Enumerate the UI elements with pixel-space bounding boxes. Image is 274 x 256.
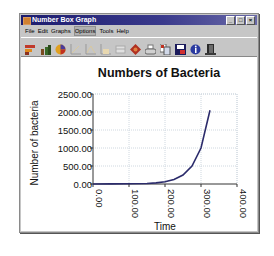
menu-edit[interactable]: Edit (38, 26, 48, 36)
minimize-button[interactable]: _ (226, 16, 235, 25)
bar-graph-icon[interactable] (25, 41, 36, 52)
y-tick-label: 1000.00 (58, 143, 92, 154)
save-icon[interactable] (175, 41, 186, 52)
app-window: Number Box Graph _ □ × File Edit Graphs … (19, 13, 259, 233)
chart-panel: Numbers of Bacteria0.00100.00200.00300.0… (21, 56, 257, 231)
y-tick-label: 0.00 (74, 179, 93, 190)
menu-file[interactable]: File (25, 26, 35, 36)
x-tick-label: 100.00 (130, 189, 141, 218)
close-button[interactable]: × (246, 16, 255, 25)
maximize-button[interactable]: □ (236, 16, 245, 25)
line-graph-icon[interactable] (70, 41, 81, 52)
y-tick-label: 2000.00 (58, 107, 92, 118)
toolbar (21, 37, 257, 55)
column-graph-icon[interactable] (40, 41, 51, 52)
menu-tools[interactable]: Tools (99, 26, 113, 36)
y-tick-label: 500.00 (63, 161, 92, 172)
x-tick-label: 400.00 (238, 189, 249, 218)
title-bar[interactable]: Number Box Graph _ □ × (21, 15, 257, 25)
x-tick-label: 300.00 (202, 189, 213, 218)
window-title: Number Box Graph (32, 16, 96, 23)
y-tick-label: 1500.00 (58, 125, 92, 136)
copy-icon[interactable] (160, 41, 171, 52)
info-icon[interactable] (190, 41, 201, 52)
print-icon[interactable] (145, 41, 156, 52)
x-tick-label: 0.00 (94, 189, 105, 208)
exit-icon[interactable] (205, 41, 216, 52)
pie-chart-icon[interactable] (55, 41, 66, 52)
chart-title: Numbers of Bacteria (98, 66, 221, 80)
area-graph-icon[interactable] (85, 41, 96, 52)
x-tick-label: 200.00 (166, 189, 177, 218)
menu-help[interactable]: Help (116, 26, 128, 36)
data-line (93, 110, 210, 184)
options-icon[interactable] (130, 41, 141, 52)
app-icon (23, 17, 31, 25)
menu-options[interactable]: Options (74, 26, 97, 36)
x-axis-label: Time (154, 221, 176, 232)
y-tick-label: 2500.00 (58, 89, 92, 100)
y-axis-label: Number of bacteria (29, 100, 40, 185)
menu-graphs[interactable]: Graphs (51, 26, 71, 36)
step-graph-icon[interactable] (100, 41, 111, 52)
menu-bar: File Edit Graphs Options Tools Help (21, 26, 257, 36)
line-chart: Numbers of Bacteria0.00100.00200.00300.0… (21, 57, 257, 232)
table-icon[interactable] (115, 41, 126, 52)
